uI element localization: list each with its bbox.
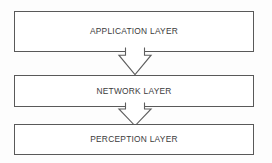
layer-label-application: APPLICATION LAYER — [90, 27, 178, 35]
down-arrow-icon — [118, 47, 152, 76]
layer-label-network: NETWORK LAYER — [96, 87, 171, 95]
layer-box-perception: PERCEPTION LAYER — [14, 124, 254, 155]
layer-label-perception: PERCEPTION LAYER — [90, 135, 178, 143]
arrow-application-to-network — [118, 47, 152, 76]
layer-box-application: APPLICATION LAYER — [14, 11, 254, 52]
layer-architecture-diagram: APPLICATION LAYER NETWORK LAYER PERCEPTI… — [0, 0, 272, 163]
